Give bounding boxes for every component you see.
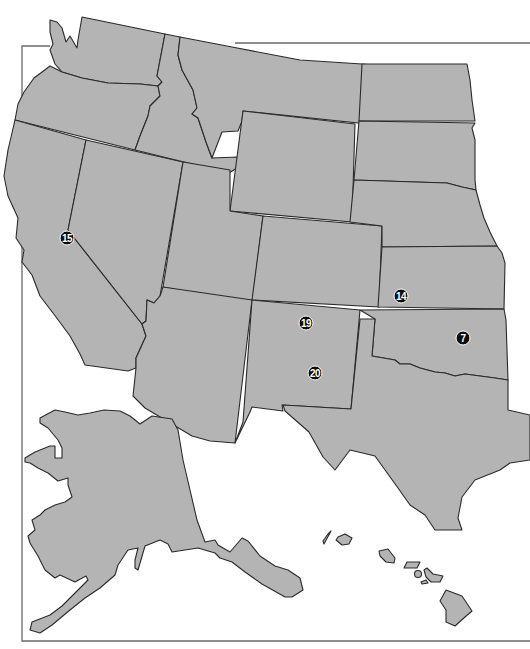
island-kahoolawe bbox=[421, 580, 428, 584]
marker-15-label: 15 bbox=[62, 233, 73, 244]
island-kauai bbox=[336, 534, 352, 545]
island-maui bbox=[424, 568, 443, 582]
marker-20[interactable]: 20 bbox=[308, 366, 322, 380]
state-south-dakota bbox=[354, 121, 476, 190]
state-alaska bbox=[25, 410, 303, 633]
island-big-island bbox=[440, 590, 472, 626]
marker-15[interactable]: 15 bbox=[60, 231, 74, 245]
state-north-dakota bbox=[359, 64, 475, 121]
island-molokai bbox=[404, 562, 420, 568]
island-kauai-west bbox=[323, 531, 331, 544]
marker-14-label: 14 bbox=[396, 291, 407, 302]
marker-19[interactable]: 19 bbox=[299, 316, 313, 330]
map-canvas: 15 14 7 19 20 bbox=[0, 0, 530, 649]
marker-14[interactable]: 14 bbox=[394, 289, 408, 303]
island-lanai bbox=[415, 571, 422, 578]
marker-7[interactable]: 7 bbox=[456, 331, 470, 345]
state-hawaii bbox=[323, 531, 472, 626]
marker-19-label: 19 bbox=[301, 318, 312, 329]
state-colorado bbox=[252, 216, 382, 307]
island-oahu bbox=[379, 549, 395, 563]
marker-20-label: 20 bbox=[310, 368, 321, 379]
state-wyoming bbox=[230, 111, 355, 222]
us-west-map: 15 14 7 19 20 bbox=[0, 0, 530, 649]
